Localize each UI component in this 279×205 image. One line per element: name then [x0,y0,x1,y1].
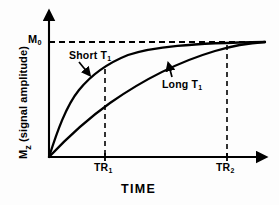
tr1-axis-label: TR1 [94,161,112,173]
tr1-label-text: TR [94,161,108,173]
mri-t1-recovery-figure: Mz (signal amplitude) M0 Short T1 Long T… [0,0,279,205]
long-t1-annotation-text: Long T [162,78,198,90]
long-t1-annotation: Long T1 [162,78,202,90]
m0-axis-label: M0 [28,33,42,45]
short-t1-annotation: Short T1 [69,49,111,61]
short-t1-leader-arrow [79,62,88,73]
plot-canvas [0,0,279,205]
y-axis-title: Mz (signal amplitude) [17,28,32,178]
tr2-label-text: TR [216,161,230,173]
short-t1-annotation-text: Short T [69,49,107,61]
tr2-axis-label: TR2 [216,161,234,173]
tr2-label-subscript: 2 [230,167,234,174]
tr1-label-subscript: 1 [108,167,112,174]
x-axis-title: TIME [121,182,156,196]
m0-label-subscript: 0 [37,38,41,47]
y-axis-title-text: (signal amplitude) [17,46,29,145]
short-t1-annotation-subscript: 1 [107,55,111,62]
y-axis-title-symbol: M [17,150,29,159]
m0-label-symbol: M [28,33,37,45]
long-t1-annotation-subscript: 1 [198,84,202,91]
y-axis-title-subscript: z [23,145,33,150]
